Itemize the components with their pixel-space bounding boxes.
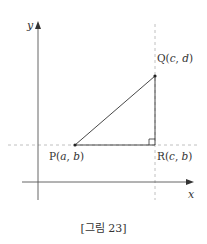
figure-caption: [그림 23]	[0, 219, 207, 235]
x-axis-label: x	[188, 188, 195, 201]
y-axis-arrow-icon	[35, 21, 41, 29]
label-P: P(a, b)	[49, 150, 84, 162]
right-angle-marker	[149, 139, 155, 145]
point-P	[73, 143, 76, 146]
y-axis-label: y	[26, 19, 34, 32]
point-Q	[153, 74, 156, 77]
label-R: R(c, b)	[157, 150, 192, 162]
label-Q: Q(c, d)	[157, 52, 193, 64]
x-axis-arrow-icon	[186, 179, 194, 185]
segment-PQ	[75, 76, 155, 145]
coordinate-diagram: y x Q(c, d) P(a, b) R(c, b)	[0, 0, 207, 244]
